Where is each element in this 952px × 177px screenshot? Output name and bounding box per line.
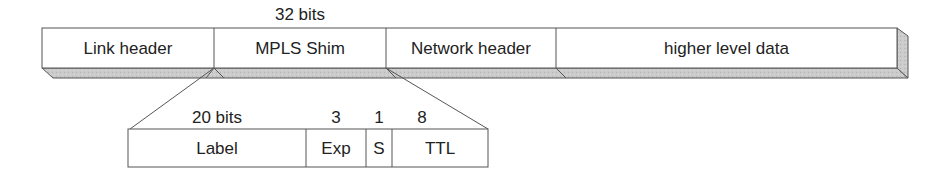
packet-bar-bottom-face — [42, 68, 908, 78]
bits-label-ttl: 8 — [392, 109, 452, 126]
field-network-header: Network header — [386, 40, 556, 57]
field-link-header: Link header — [42, 40, 214, 57]
bits-label-s: 1 — [366, 109, 392, 126]
shim-field-label: Label — [128, 140, 306, 157]
field-higher-level-data: higher level data — [556, 40, 897, 57]
total-width-label: 32 bits — [250, 6, 350, 23]
bits-label-exp: 3 — [306, 109, 366, 126]
field-mpls-shim: MPLS Shim — [214, 40, 386, 57]
shim-field-exp: Exp — [306, 140, 366, 157]
shim-field-s: S — [366, 140, 392, 157]
shim-field-ttl: TTL — [392, 140, 488, 157]
bits-label-label: 20 bits — [128, 109, 306, 126]
